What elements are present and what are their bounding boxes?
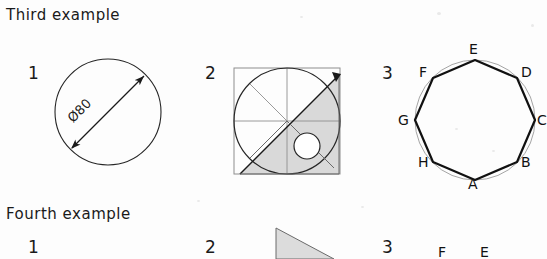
octagon-vertex-label-c: C xyxy=(537,112,547,128)
figure-3-octagon xyxy=(415,60,535,180)
figure-2-group xyxy=(234,68,341,174)
figure-2-circle xyxy=(234,68,340,174)
scan-speck xyxy=(455,128,458,130)
figure-2-inner-circle xyxy=(294,133,320,159)
figure-2-radial-line-diagonal-sw xyxy=(249,121,287,159)
octagon-vertex-label-f: F xyxy=(419,64,427,80)
fourth-figure-2-shaded-triangle xyxy=(276,228,334,259)
figure-2-arrow-tick-icon xyxy=(332,72,341,82)
scan-speck xyxy=(531,24,534,27)
figure-3-circumscribed-circle xyxy=(415,60,535,180)
figure-number-fourth-1: 1 xyxy=(28,237,39,257)
octagon-vertex-label-g: G xyxy=(398,112,409,128)
scan-speck xyxy=(361,206,364,208)
figure-number-1: 1 xyxy=(28,63,39,83)
figure-2-bounding-square xyxy=(234,68,340,174)
scan-speck xyxy=(437,12,441,15)
figure-number-fourth-2: 2 xyxy=(205,237,216,257)
octagon-vertex-label-d: D xyxy=(521,64,532,80)
scan-speck xyxy=(197,200,200,202)
figure-2-hypotenuse xyxy=(240,75,339,174)
octagon-vertex-label-b: B xyxy=(521,154,531,170)
fourth-example-figure-2-group xyxy=(276,228,334,259)
octagon-vertex-label-a: A xyxy=(468,176,478,192)
drawing-sheet: Third example Fourth example 1 2 3 1 2 3 xyxy=(0,0,547,259)
octagon-vertex-label-e: E xyxy=(469,41,478,57)
figure-number-fourth-3: 3 xyxy=(382,237,393,257)
section-heading-third-example: Third example xyxy=(6,6,120,24)
figure-2-radial-line-diagonal-nw xyxy=(249,83,287,121)
figure-2-shaded-triangle xyxy=(240,75,340,174)
fourth-figure-3-label-e: E xyxy=(480,244,489,259)
figure-2-chord-to-corner xyxy=(287,121,334,168)
figure-number-3: 3 xyxy=(382,63,393,83)
scan-speck xyxy=(492,150,495,152)
figure-1-diameter-label: Ø80 xyxy=(65,96,95,126)
section-heading-fourth-example: Fourth example xyxy=(6,205,131,223)
figure-number-2: 2 xyxy=(205,63,216,83)
figure-3-group xyxy=(415,60,535,180)
fourth-figure-3-label-f: F xyxy=(438,244,446,259)
octagon-vertex-label-h: H xyxy=(418,154,429,170)
scan-speck xyxy=(300,16,303,18)
